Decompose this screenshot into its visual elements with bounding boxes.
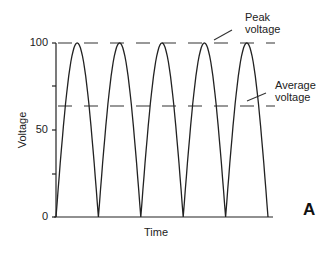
peak-voltage-annotation: Peak voltage xyxy=(245,11,280,35)
rectified-waveform xyxy=(56,43,268,217)
average-label-line2: voltage xyxy=(275,91,316,103)
average-leader-line xyxy=(247,93,266,101)
peak-leader-line xyxy=(214,30,232,40)
average-label-line1: Average xyxy=(275,79,316,91)
average-voltage-annotation: Average voltage xyxy=(275,79,316,103)
peak-label-line1: Peak xyxy=(245,11,280,23)
peak-label-line2: voltage xyxy=(245,23,280,35)
y-tick-label-0: 0 xyxy=(18,210,48,222)
panel-label: A xyxy=(303,200,315,220)
x-axis-label: Time xyxy=(144,226,168,238)
y-tick-label-100: 100 xyxy=(18,36,48,48)
y-axis-label: Voltage xyxy=(16,112,28,149)
rectified-voltage-chart xyxy=(0,0,334,253)
